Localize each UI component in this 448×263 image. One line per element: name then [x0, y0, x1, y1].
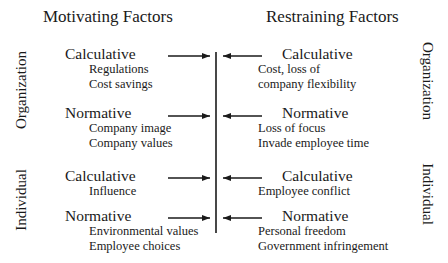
force-field-graphic [0, 0, 448, 263]
